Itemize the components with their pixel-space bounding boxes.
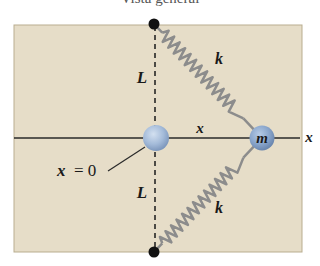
axis-label: x (304, 129, 313, 145)
origin-variable: x (56, 161, 66, 180)
mass-label: m (256, 130, 268, 146)
origin-label: x = 0 (56, 160, 96, 180)
bottom-length-label: L (136, 183, 147, 202)
top-spring-constant-label: k (215, 50, 223, 67)
top-length-label: L (136, 68, 147, 87)
displacement-label: x (195, 120, 204, 136)
bottom-spring-constant-label: k (215, 199, 223, 216)
origin-equals: = 0 (74, 161, 96, 180)
spring-mass-diagram: m L L k k x x x = 0 (0, 0, 320, 266)
bottom-anchor-icon (149, 247, 160, 258)
equilibrium-ball (143, 125, 169, 151)
top-anchor-icon (149, 19, 160, 30)
